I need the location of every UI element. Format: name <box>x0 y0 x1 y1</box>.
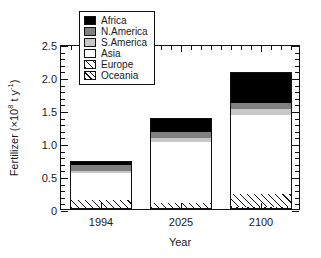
x-axis-tick-top-minor <box>271 46 272 50</box>
x-axis-tick-top <box>181 46 182 52</box>
y-axis-tick-major <box>61 112 68 113</box>
y-axis-tick-minor <box>61 105 65 106</box>
y-axis-title-suffix: ) <box>8 80 20 84</box>
y-axis-tick-major <box>292 211 299 212</box>
y-axis-tick-minor <box>61 66 65 67</box>
y-axis-title-exponent-2: -1 <box>6 83 15 90</box>
legend-item-s-america: S.America <box>84 37 148 48</box>
fertilizer-stacked-bar-chart: Fertilizer (×108 t y-1) Year 00.51.01.52… <box>0 0 321 258</box>
x-axis-tick-top-minor <box>231 46 232 50</box>
y-axis-tick-minor <box>61 204 65 205</box>
y-axis-tick-minor <box>61 59 65 60</box>
bar-segment-1994-africa <box>70 161 132 164</box>
y-axis-tick-minor <box>295 119 299 120</box>
y-axis-tick-minor <box>295 152 299 153</box>
bar-segment-2100-africa <box>230 72 292 103</box>
bar-segment-2100-n-america <box>230 103 292 109</box>
y-axis-tick-minor <box>295 158 299 159</box>
y-axis-tick-minor <box>295 99 299 100</box>
y-axis-title-exponent-1: 8 <box>6 105 15 109</box>
legend-item-africa: Africa <box>84 15 148 26</box>
y-axis-tick-minor <box>61 165 65 166</box>
y-axis-tick-major <box>61 79 68 80</box>
y-axis-tick-major <box>61 145 68 146</box>
x-axis-tick-top-minor <box>251 46 252 50</box>
legend-item-n-america: N.America <box>84 26 148 37</box>
legend-swatch-icon <box>84 27 96 36</box>
y-axis-tick-minor <box>295 204 299 205</box>
bar-segment-2025-s-america <box>150 138 212 143</box>
y-axis-tick-label: 2.5 <box>42 41 57 52</box>
x-axis-tick-label: 1994 <box>89 217 113 228</box>
bar-segment-1994-asia <box>70 173 132 199</box>
y-axis-tick-major <box>292 112 299 113</box>
y-axis-tick-minor <box>295 171 299 172</box>
y-axis-title-mid: t y <box>8 90 20 105</box>
y-axis-tick-minor <box>61 125 65 126</box>
x-axis-tick-top-minor <box>211 46 212 50</box>
legend-label: Oceania <box>101 71 138 81</box>
bar-segment-2025-n-america <box>150 132 212 138</box>
y-axis-tick-minor <box>295 132 299 133</box>
chart-legend: AfricaN.AmericaS.AmericaAsiaEuropeOceani… <box>79 11 155 85</box>
y-axis-title-prefix: Fertilizer (×10 <box>8 109 20 177</box>
y-axis-tick-label: 1.0 <box>42 140 57 151</box>
y-axis-tick-minor <box>61 92 65 93</box>
bar-segment-2025-asia <box>150 142 212 203</box>
x-axis-tick-top <box>261 46 262 52</box>
y-axis-tick-major <box>292 178 299 179</box>
x-axis-tick-top-minor <box>291 46 292 50</box>
x-axis-tick-top-minor <box>201 46 202 50</box>
y-axis-tick-minor <box>61 53 65 54</box>
y-axis-tick-label: 0 <box>51 206 57 217</box>
legend-label: Asia <box>101 49 120 59</box>
y-axis-tick-minor <box>295 165 299 166</box>
y-axis-tick-minor <box>295 138 299 139</box>
legend-label: Europe <box>101 60 133 70</box>
bar-2025 <box>150 118 212 209</box>
legend-swatch-icon <box>84 60 96 69</box>
x-axis-tick-top-minor <box>191 46 192 50</box>
y-axis-tick-major <box>61 211 68 212</box>
legend-item-asia: Asia <box>84 48 148 59</box>
bar-segment-2100-s-america <box>230 109 292 114</box>
bar-2100 <box>230 72 292 209</box>
y-axis-tick-major <box>61 178 68 179</box>
y-axis-tick-minor <box>295 86 299 87</box>
bar-1994 <box>70 161 132 209</box>
y-axis-tick-label: 0.5 <box>42 173 57 184</box>
y-axis-tick-minor <box>61 138 65 139</box>
y-axis-tick-label: 2.0 <box>42 74 57 85</box>
y-axis-tick-minor <box>61 86 65 87</box>
legend-swatch-icon <box>84 38 96 47</box>
y-axis-tick-minor <box>61 152 65 153</box>
y-axis-title: Fertilizer (×108 t y-1) <box>6 80 20 177</box>
y-axis-tick-minor <box>295 191 299 192</box>
y-axis-tick-minor <box>295 92 299 93</box>
x-axis-tick <box>261 203 262 209</box>
y-axis-tick-minor <box>61 119 65 120</box>
x-axis-tick-label: 2100 <box>249 217 273 228</box>
legend-swatch-icon <box>84 49 96 58</box>
x-axis-tick-top-minor <box>171 46 172 50</box>
y-axis-tick-minor <box>61 185 65 186</box>
legend-swatch-icon <box>84 71 96 80</box>
legend-label: S.America <box>101 38 147 48</box>
bar-segment-2100-asia <box>230 115 292 194</box>
x-axis-tick <box>181 203 182 209</box>
y-axis-tick-minor <box>61 99 65 100</box>
y-axis-tick-major <box>292 145 299 146</box>
y-axis-tick-minor <box>295 53 299 54</box>
y-axis-tick-minor <box>295 125 299 126</box>
x-axis-tick-top-minor <box>221 46 222 50</box>
y-axis-tick-minor <box>61 132 65 133</box>
x-axis-tick-top-minor <box>241 46 242 50</box>
x-axis-tick <box>101 203 102 209</box>
x-axis-tick-top-minor <box>71 46 72 50</box>
y-axis-tick-minor <box>295 72 299 73</box>
y-axis-tick-minor <box>61 72 65 73</box>
legend-item-europe: Europe <box>84 59 148 70</box>
y-axis-tick-minor <box>295 198 299 199</box>
legend-item-oceania: Oceania <box>84 70 148 81</box>
y-axis-tick-minor <box>295 105 299 106</box>
